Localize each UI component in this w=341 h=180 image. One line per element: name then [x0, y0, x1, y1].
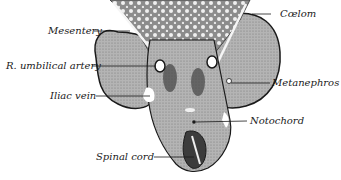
- label-spinal-cord: Spinal cord: [96, 151, 154, 163]
- label-notochord: Notochord: [250, 115, 304, 127]
- label-r-umbilical-artery: R. umbilical artery: [6, 60, 101, 72]
- embryo-cross-section-figure: Mesentery Cœlom R. umbilical artery Meta…: [0, 0, 341, 180]
- left-lobe: [95, 31, 150, 109]
- label-mesentery: Mesentery: [48, 25, 102, 37]
- label-metanephros: Metanephros: [272, 77, 339, 89]
- label-iliac-vein: Iliac vein: [50, 90, 96, 102]
- label-coelom: Cœlom: [280, 8, 316, 20]
- central-body: [143, 40, 232, 171]
